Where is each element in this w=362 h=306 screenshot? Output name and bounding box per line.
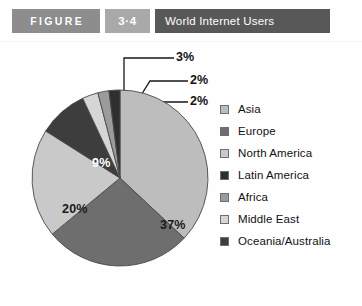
legend-item-africa: Africa [220, 186, 360, 208]
legend-item-label: North America [238, 147, 312, 159]
figure-header: FIGURE 3·4 World Internet Users [0, 9, 362, 33]
chart-area: 37% 27% 20% 9% 3% 2% 2% Asia Europe Nort… [0, 44, 362, 302]
legend-item-north-america: North America [220, 142, 360, 164]
legend-item-middle-east: Middle East [220, 208, 360, 230]
legend-swatch-icon [220, 149, 229, 158]
legend-item-europe: Europe [220, 120, 360, 142]
legend-item-label: Asia [238, 103, 261, 115]
pie-chart: 37% 27% 20% 9% [24, 82, 216, 274]
legend-item-asia: Asia [220, 98, 360, 120]
legend-swatch-icon [220, 193, 229, 202]
legend-item-label: Middle East [238, 213, 299, 225]
legend-item-label: Latin America [238, 169, 309, 181]
legend-item-label: Europe [238, 125, 276, 137]
legend-item-oceania-australia: Oceania/Australia [220, 230, 360, 252]
legend-swatch-icon [220, 215, 229, 224]
legend-swatch-icon [220, 237, 229, 246]
header-divider [0, 41, 362, 42]
legend-swatch-icon [220, 171, 229, 180]
pie-callout-label-africa: 2% [190, 73, 208, 87]
legend-swatch-icon [220, 127, 229, 136]
pie-callout-label-latin-america: 2% [190, 94, 208, 108]
chart-legend: Asia Europe North America Latin America … [220, 98, 360, 252]
pie-value-label-europe: 27% [96, 272, 122, 286]
legend-item-label: Africa [238, 191, 268, 203]
figure-panel: FIGURE 3·4 World Internet Users [0, 0, 362, 306]
figure-word-band: FIGURE [12, 9, 100, 33]
pie-callout-label-middle-east: 3% [176, 50, 194, 64]
legend-item-label: Oceania/Australia [238, 235, 330, 247]
pie-slices [32, 90, 208, 266]
pie-value-label-north-america: 20% [62, 202, 88, 216]
figure-title-band: World Internet Users [155, 9, 330, 33]
pie-value-label-oceania-australia: 9% [92, 156, 110, 170]
pie-value-label-asia: 37% [160, 218, 186, 232]
figure-number-band: 3·4 [105, 9, 150, 33]
legend-swatch-icon [220, 105, 229, 114]
legend-item-latin-america: Latin America [220, 164, 360, 186]
pie-svg [24, 82, 216, 274]
